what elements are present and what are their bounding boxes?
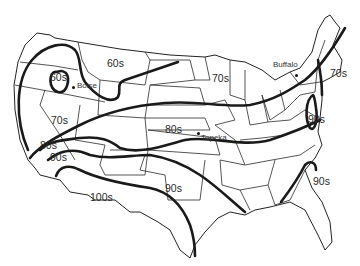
temp-label-texas-90s: 90s <box>165 183 182 194</box>
temp-label-plains-80s: 80s <box>165 124 182 135</box>
city-dot-boise <box>72 86 75 89</box>
temp-label-montana-60s: 60s <box>107 58 124 69</box>
temp-label-newengland-70s: 70s <box>330 68 347 79</box>
temp-label-calif-90s: 90s <box>50 152 67 163</box>
temp-label-midatlantic-90s: 90s <box>308 114 325 125</box>
us-outline <box>14 15 342 258</box>
city-dot-buffalo <box>295 74 298 77</box>
temp-label-midwest-70s: 70s <box>212 73 229 84</box>
temp-label-boise-60s: 60s <box>50 72 67 83</box>
temp-label-southwest-100s: 100s <box>90 192 113 203</box>
temperature-map: 60s 60s 70s 70s 70s 80s 80s 90s 90s 90s … <box>0 0 360 266</box>
temp-label-calif-80s: 80s <box>40 140 57 151</box>
temp-label-southeast-90s: 90s <box>313 176 330 187</box>
city-label-topeka: Topeka <box>201 134 227 142</box>
city-label-boise: Boise <box>77 82 97 90</box>
city-label-buffalo: Buffalo <box>273 61 298 69</box>
temp-label-nevada-70s: 70s <box>51 115 68 126</box>
city-dot-topeka <box>197 132 200 135</box>
